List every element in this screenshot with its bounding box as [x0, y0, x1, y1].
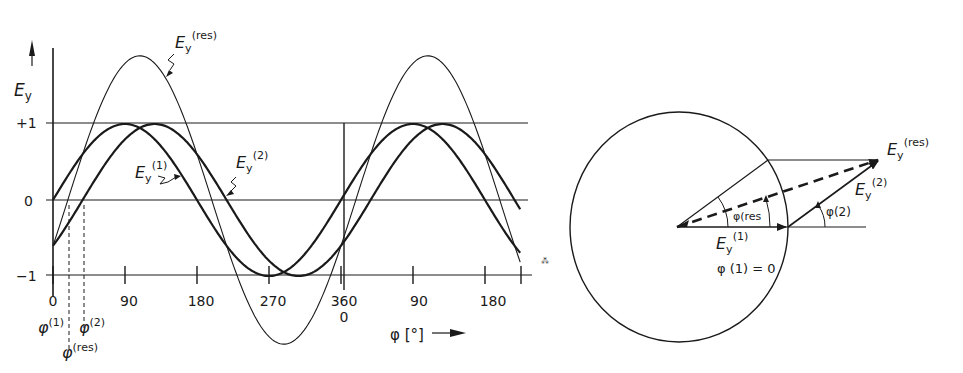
y-axis-label: Ey [14, 80, 32, 103]
angle-arrow-icon [815, 201, 821, 208]
curve-label-e2-leader [230, 177, 236, 192]
phasor-diagram: Ey(res) Ey(2) Ey(1) φ (1) = 0 φ(res φ(2) [570, 112, 929, 342]
x-label-90-second: 90 [410, 293, 428, 309]
label-e1: Ey(1) [716, 230, 748, 256]
leader-arrow-icon [166, 70, 173, 77]
x-label-270: 270 [260, 293, 287, 309]
x-label-180-second: 180 [480, 293, 507, 309]
label-e2: Ey(2) [855, 176, 887, 202]
phase-label-res: φ(res) [62, 341, 98, 362]
label-phi-res: φ(res [733, 210, 762, 223]
y-label-plus1: +1 [16, 115, 37, 131]
curve-label-res-leader [168, 54, 174, 70]
stray-mark: ⁂ [541, 256, 549, 266]
curve-label-e2: Ey(2) [236, 149, 268, 175]
phase-label-2: φ(2) [79, 316, 105, 337]
label-phi2: φ(2) [826, 205, 851, 219]
leader-arrow-icon [174, 174, 181, 180]
x-label-180: 180 [188, 293, 215, 309]
angle-arc-phi-2 [818, 205, 825, 227]
x-axis-title: φ [°] [390, 326, 424, 344]
waveform-plot: Ey +1 0 −1 0 90 180 270 360 0 90 180 φ [… [14, 29, 549, 362]
y-label-zero: 0 [24, 193, 33, 209]
y-axis-arrow-head-icon [29, 40, 35, 56]
x-label-360-sub: 0 [340, 309, 349, 325]
label-phi1-eq-zero: φ (1) = 0 [717, 261, 776, 276]
x-axis-arrow-head-icon [450, 329, 466, 337]
curve-label-e1-leader [158, 176, 176, 184]
label-eres: Ey(res) [887, 136, 929, 162]
figure-canvas: Ey +1 0 −1 0 90 180 270 360 0 90 180 φ [… [0, 0, 963, 373]
x-label-0: 0 [49, 293, 58, 309]
angle-arc-phi-res [766, 199, 770, 227]
x-label-90: 90 [120, 293, 138, 309]
x-label-360: 360 [331, 293, 358, 309]
curve-label-res: Ey(res) [175, 29, 217, 55]
y-label-minus1: −1 [16, 268, 37, 284]
phase-label-1: φ(1) [38, 316, 64, 337]
leader-arrow-icon [226, 190, 234, 196]
